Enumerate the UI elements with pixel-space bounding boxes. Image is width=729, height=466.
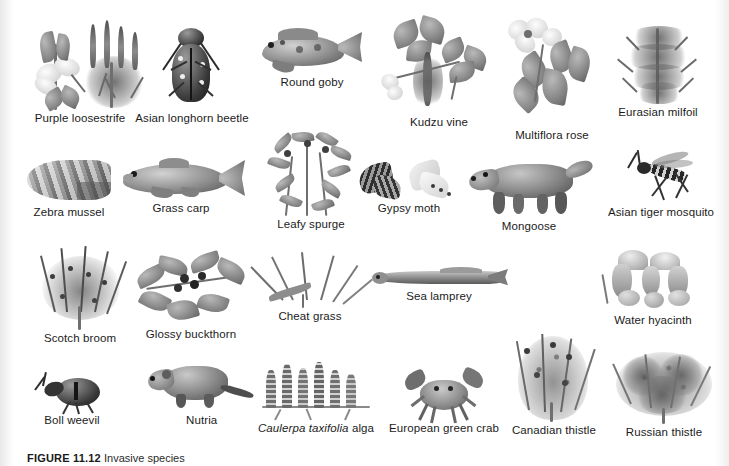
species-label-nutria: Nutria [186,414,217,427]
species-glossy-buckthorn: Glossy buckthorn [130,248,252,341]
mongoose-illustration [465,156,593,220]
species-nutria: Nutria [128,362,260,414]
species-label-european-green-crab: European green crab [384,422,504,435]
invasive-species-figure: Purple loosestrife Asian longhorn beetle [0,0,729,466]
species-label-sea-lamprey: Sea lamprey [368,290,510,303]
multiflora-rose-illustration [498,18,606,126]
caulerpa-taxifolia-illustration [256,360,376,422]
species-multiflora-rose: Multiflora rose [496,18,608,142]
cheat-grass-illustration [262,252,358,310]
european-green-crab-illustration [392,366,496,422]
species-label-cheat-grass: Cheat grass [258,310,362,323]
species-label-mongoose: Mongoose [462,220,596,233]
species-round-goby: Round goby [252,24,372,89]
round-goby-illustration [256,24,368,76]
asian-tiger-mosquito-illustration [611,150,711,206]
zebra-mussel-illustration [19,152,119,206]
scotch-broom-illustration [32,246,128,332]
canadian-thistle-illustration [504,332,604,424]
species-sea-lamprey: Sea lamprey [368,266,510,303]
species-label-round-goby: Round goby [252,76,372,89]
species-label-leafy-spurge: Leafy spurge [258,218,364,231]
species-label-water-hyacinth: Water hyacinth [594,314,712,327]
species-european-green-crab: European green crab [384,366,504,435]
kudzu-vine-illustration [379,18,499,114]
purple-loosestrife-illustration [14,18,146,112]
figure-caption: FIGURE 11.12 Invasive species [27,451,717,466]
asian-longhorn-beetle-illustration [144,18,240,112]
species-purple-loosestrife: Purple loosestrife [10,18,150,125]
water-hyacinth-illustration [598,250,708,314]
species-russian-thistle: Russian thistle [608,350,720,439]
species-eurasian-milfoil: Eurasian milfoil [606,24,710,119]
species-boll-weevil: Boll weevil [26,372,118,427]
caulerpa-scientific-name: Caulerpa taxifolia [258,422,349,434]
species-label-glossy-buckthorn: Glossy buckthorn [130,328,252,341]
nutria-illustration [142,362,246,414]
species-leafy-spurge: Leafy spurge [258,128,364,231]
species-label-gypsy-moth: Gypsy moth [354,202,464,215]
species-scotch-broom: Scotch broom [28,246,132,345]
eurasian-milfoil-illustration [612,24,704,106]
species-label-grass-carp: Grass carp [106,202,256,215]
species-gypsy-moth: Gypsy moth [354,158,464,215]
species-kudzu-vine: Kudzu vine [376,18,502,129]
species-label-scotch-broom: Scotch broom [28,332,132,345]
species-canadian-thistle: Canadian thistle [500,332,608,437]
species-label-asian-longhorn-beetle: Asian longhorn beetle [134,112,250,125]
leafy-spurge-illustration [264,128,358,218]
species-caulerpa-taxifolia-alga: Caulerpa taxifolia alga [250,360,382,435]
gypsy-moth-illustration [357,158,461,202]
russian-thistle-illustration [612,350,716,426]
glossy-buckthorn-illustration [132,248,250,328]
species-label-caulerpa-taxifolia-alga: Caulerpa taxifolia alga [250,422,382,435]
species-grass-carp: Grass carp [106,156,256,215]
species-label-multiflora-rose: Multiflora rose [496,129,608,142]
grass-carp-illustration [115,156,247,202]
sea-lamprey-illustration [370,266,508,290]
caulerpa-common-suffix: alga [349,422,374,434]
species-label-eurasian-milfoil: Eurasian milfoil [606,106,710,119]
species-mongoose: Mongoose [462,156,596,233]
boll-weevil-illustration [30,372,114,414]
species-label-boll-weevil: Boll weevil [26,414,118,427]
species-asian-longhorn-beetle: Asian longhorn beetle [134,18,250,125]
species-cheat-grass: Cheat grass [258,252,362,323]
species-label-canadian-thistle: Canadian thistle [500,424,608,437]
species-label-russian-thistle: Russian thistle [608,426,720,439]
species-asian-tiger-mosquito: Asian tiger mosquito [604,150,718,219]
species-label-asian-tiger-mosquito: Asian tiger mosquito [604,206,718,219]
figure-caption-text: Invasive species [104,452,185,464]
species-label-purple-loosestrife: Purple loosestrife [10,112,150,125]
figure-number: FIGURE 11.12 [27,452,101,464]
species-water-hyacinth: Water hyacinth [594,250,712,327]
species-label-kudzu-vine: Kudzu vine [376,116,502,129]
